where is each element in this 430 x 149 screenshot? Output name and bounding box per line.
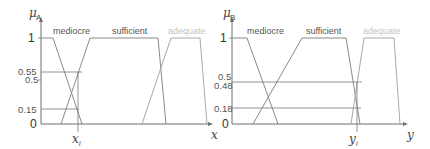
right-mf-sufficient [253,38,360,124]
left-x-arrow-icon [208,122,213,126]
right-x-arrow-icon [403,122,408,126]
left-axis-var: x [211,128,218,142]
left-chart: μ A 1 0.55 0.5 0.15 0 mediocre sufficien… [18,6,218,147]
left-tick-0: 0 [30,117,37,131]
left-mf-adequate [142,38,207,124]
right-label-sufficient: sufficient [306,26,342,36]
left-mu-sub: A [36,13,42,22]
left-mf-sufficient [61,38,166,124]
left-tick-1: 1 [28,31,35,45]
right-marker-sub: i [356,140,358,147]
left-tick-015: 0.15 [18,104,37,115]
left-label-sufficient: sufficient [112,26,148,36]
right-tick-0: 0 [222,117,229,131]
right-marker-y: y [348,132,356,146]
right-tick-1: 1 [220,31,227,45]
right-mf-mediocre [232,38,278,124]
right-axis-var: y [406,128,414,142]
right-label-adequate: adequate [363,26,401,36]
right-mu-sub: B [230,13,235,22]
right-tick-018: 0.18 [214,103,233,114]
left-marker-x: x [72,132,79,146]
right-label-mediocre: mediocre [247,26,284,36]
left-label-mediocre: mediocre [53,26,90,36]
right-chart: μ B 1 0.5 0.48 0.18 0 mediocre sufficien… [214,6,414,147]
left-marker-sub: i [79,140,81,147]
fuzzy-membership-charts: μ A 1 0.55 0.5 0.15 0 mediocre sufficien… [0,0,430,149]
right-tick-048: 0.48 [214,80,233,91]
left-label-adequate: adequate [168,26,206,36]
left-tick-05: 0.5 [25,74,38,85]
